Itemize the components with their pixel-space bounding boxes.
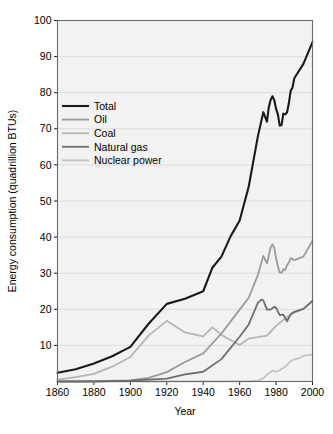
legend-label-total: Total xyxy=(94,100,116,112)
legend-label-natural-gas: Natural gas xyxy=(94,141,148,153)
y-tick-label: 80 xyxy=(40,86,52,98)
y-tick-label: 60 xyxy=(40,159,52,171)
y-tick-label: 30 xyxy=(40,267,52,279)
chart-figure: 102030405060708090100 186018801900192019… xyxy=(0,0,333,434)
y-tick-label: 40 xyxy=(40,231,52,243)
y-tick-label: 100 xyxy=(34,14,52,26)
legend-label-nuclear-power: Nuclear power xyxy=(94,154,162,166)
y-tick-label: 50 xyxy=(40,195,52,207)
x-tick-label: 1960 xyxy=(228,386,252,398)
x-tick-label: 1880 xyxy=(82,386,106,398)
x-tick-label: 2000 xyxy=(301,386,325,398)
x-tick-label: 1900 xyxy=(119,386,143,398)
y-tick-label: 70 xyxy=(40,122,52,134)
y-tick-label: 20 xyxy=(40,303,52,315)
x-axis-title: Year xyxy=(174,405,196,417)
legend-label-coal: Coal xyxy=(94,127,116,139)
x-tick-label: 1940 xyxy=(192,386,216,398)
energy-consumption-line-chart: 102030405060708090100 186018801900192019… xyxy=(0,0,333,434)
x-tick-label: 1980 xyxy=(264,386,288,398)
x-tick-label: 1860 xyxy=(46,386,70,398)
legend-label-oil: Oil xyxy=(94,113,107,125)
y-tick-label: 10 xyxy=(40,339,52,351)
x-tick-label: 1920 xyxy=(155,386,179,398)
y-tick-label: 90 xyxy=(40,50,52,62)
y-axis-title: Energy consumption (quadrillion BTUs) xyxy=(6,110,18,293)
